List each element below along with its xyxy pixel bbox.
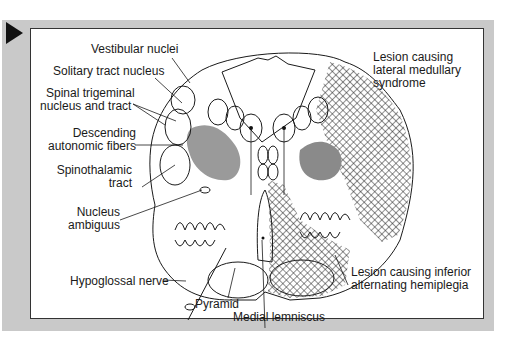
label-descending-autonomic-line2: autonomic fibers <box>40 140 136 153</box>
label-nucleus-ambiguus-line2: ambiguus <box>40 219 120 232</box>
label-hypoglossal-nerve: Hypoglossal nerve <box>70 275 169 288</box>
label-spinal-trigeminal-line2: nucleus and tract <box>40 100 130 113</box>
label-inferior-lesion-line2: alternating hemiplegia <box>351 279 468 292</box>
inferior-hemiplegia-lesion <box>268 180 350 298</box>
shaded-nucleus-right <box>299 142 341 181</box>
shaded-nucleus-left <box>187 125 241 180</box>
label-solitary-tract-nucleus: Solitary tract nucleus <box>53 65 164 78</box>
label-vestibular-nuclei: Vestibular nuclei <box>91 43 178 56</box>
label-medial-lemniscus: Medial lemniscus <box>233 311 325 324</box>
inferior-olive-left <box>175 223 225 247</box>
label-spinothalamic-line2: tract <box>40 177 132 190</box>
fourth-ventricle <box>222 56 315 142</box>
pyramid-shape <box>208 262 268 298</box>
label-lateral-lesion-line3: syndrome <box>373 77 426 90</box>
